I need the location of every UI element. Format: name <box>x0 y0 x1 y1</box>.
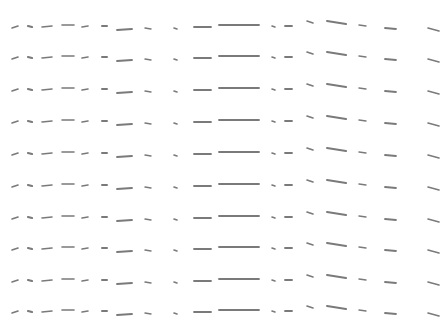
dash-stroke <box>145 250 151 251</box>
dash-stroke <box>272 248 275 249</box>
dash-stroke <box>272 311 275 312</box>
dash-stroke <box>359 184 366 185</box>
dash-stroke <box>359 247 366 248</box>
dash-stroke <box>28 280 32 281</box>
dash-stroke <box>82 26 88 27</box>
dash-stroke <box>385 123 396 124</box>
dash-stroke <box>174 123 177 124</box>
dash-stroke <box>117 92 132 93</box>
dash-stroke <box>28 89 32 90</box>
dash-stroke <box>28 248 32 249</box>
dash-stroke <box>82 217 88 218</box>
dash-stroke <box>359 120 366 121</box>
dash-stroke <box>42 185 52 186</box>
dash-stroke <box>272 57 275 58</box>
dash-stroke <box>117 124 132 125</box>
dash-stroke <box>82 89 88 90</box>
dash-stroke <box>359 279 366 280</box>
dash-stroke <box>385 155 396 156</box>
dash-stroke <box>82 311 88 312</box>
dash-stroke <box>272 121 275 122</box>
dash-stroke <box>42 280 52 281</box>
dash-stroke <box>42 311 52 312</box>
dash-stroke <box>174 187 177 188</box>
dash-stroke <box>28 311 32 312</box>
dash-stroke <box>28 57 32 58</box>
dash-stroke <box>385 187 396 188</box>
dash-stroke <box>145 219 151 220</box>
dash-stroke <box>82 248 88 249</box>
dash-stroke <box>359 25 366 26</box>
dash-stroke <box>385 282 396 283</box>
dash-stroke <box>42 57 52 58</box>
dash-stroke <box>385 313 396 314</box>
background <box>0 0 446 330</box>
dash-stroke <box>117 220 132 221</box>
dash-stroke <box>28 217 32 218</box>
dash-stroke <box>117 188 132 189</box>
dash-stroke <box>28 185 32 186</box>
dash-stroke <box>28 153 32 154</box>
dash-stroke <box>272 26 275 27</box>
dash-stroke <box>117 314 132 315</box>
dash-stroke <box>145 155 151 156</box>
dash-stroke <box>117 60 132 61</box>
dash-stroke <box>385 91 396 92</box>
dash-stroke <box>28 121 32 122</box>
dash-stroke <box>82 280 88 281</box>
dash-stroke <box>359 56 366 57</box>
dash-stroke <box>174 250 177 251</box>
dash-stroke <box>117 156 132 157</box>
dash-stroke <box>82 121 88 122</box>
dash-stroke <box>145 28 151 29</box>
dash-stroke <box>145 187 151 188</box>
dash-stroke <box>174 59 177 60</box>
dash-stroke <box>385 219 396 220</box>
dash-stroke <box>42 89 52 90</box>
dash-stroke <box>145 313 151 314</box>
dash-stroke <box>145 59 151 60</box>
dash-stroke <box>385 59 396 60</box>
dash-stroke <box>42 153 52 154</box>
dash-stroke <box>359 152 366 153</box>
dash-stroke <box>145 91 151 92</box>
dash-stroke <box>174 313 177 314</box>
dash-stroke <box>82 185 88 186</box>
dash-stroke <box>385 28 396 29</box>
dash-stroke <box>28 26 32 27</box>
dash-stroke <box>359 216 366 217</box>
dash-stroke <box>174 219 177 220</box>
dash-stroke <box>385 250 396 251</box>
dash-stroke <box>272 89 275 90</box>
dash-stroke <box>272 217 275 218</box>
dash-stroke <box>82 57 88 58</box>
dash-stroke <box>272 280 275 281</box>
dash-stroke <box>359 310 366 311</box>
dash-stroke <box>42 121 52 122</box>
dash-stroke <box>145 123 151 124</box>
dash-stroke <box>272 185 275 186</box>
dash-stroke <box>82 153 88 154</box>
dash-pattern-canvas <box>0 0 446 330</box>
dash-stroke <box>174 28 177 29</box>
dash-stroke <box>145 282 151 283</box>
dash-stroke <box>272 153 275 154</box>
dash-stroke <box>42 217 52 218</box>
dash-stroke <box>117 283 132 284</box>
dash-stroke <box>174 91 177 92</box>
dash-stroke <box>117 29 132 30</box>
dash-stroke <box>174 282 177 283</box>
dash-stroke <box>42 26 52 27</box>
dash-stroke <box>359 88 366 89</box>
dash-stroke <box>42 248 52 249</box>
dash-stroke <box>117 251 132 252</box>
dash-stroke <box>174 155 177 156</box>
